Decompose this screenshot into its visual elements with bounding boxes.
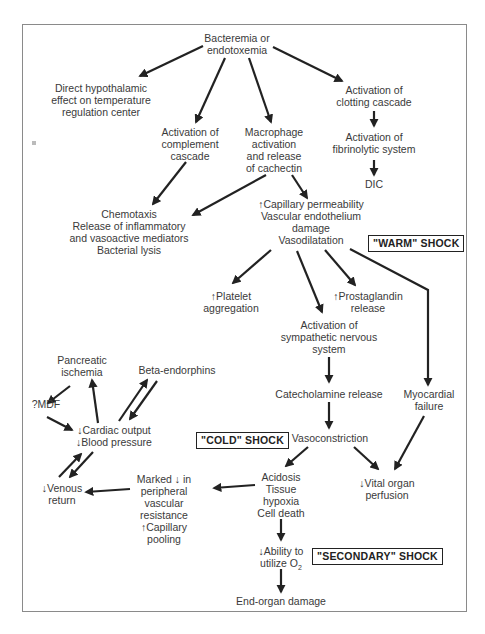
node-text: utilize O2 [259,557,304,574]
node-pancreatic: Pancreatic ischemia [57,354,107,378]
node-text: Activation of [336,84,411,96]
arrow-venous-cardiac [59,454,81,477]
node-text: release [333,302,402,314]
node-sympathetic: Activation of sympathetic nervous system [281,319,377,355]
node-fibrinolytic: Activation of fibrinolytic system [333,131,416,155]
node-text: ischemia [57,366,107,378]
node-text: ↑Capillary [137,521,191,533]
node-vital-organ: ↓Vital organ perfusion [359,477,414,501]
arrow-vaso-prostaglandin [325,250,355,285]
node-text: Activation of [333,131,416,143]
subscript-2: 2 [298,564,302,571]
node-chemotaxis: Chemotaxis Release of inflammatory and v… [69,208,188,256]
arrow-bacteremia-clotting [273,47,342,81]
node-text: ↑Prostaglandin [333,290,402,302]
node-text: hypoxia [257,495,304,507]
node-text: Marked ↓ in [137,473,191,485]
node-text: fibrinolytic system [333,143,416,155]
node-cardiac: ↓Cardiac output ↓Blood pressure [76,424,152,448]
node-text: Pancreatic [57,354,107,366]
node-text: Myocardial [404,388,455,400]
node-complement: Activation of complement cascade [161,126,218,162]
node-capillary: ↑Capillary permeability Vascular endothe… [258,198,364,246]
node-macrophage: Macrophage activation and release of cac… [245,126,303,174]
arrow-vaso-platelet [233,250,271,283]
arrow-marked-venous [86,489,130,492]
arrow-vaso-sympathetic [297,251,322,312]
node-prostaglandin: ↑Prostaglandin release [333,290,402,314]
node-text: ?MDF [32,398,61,410]
node-text: Direct hypothalamic [51,82,151,94]
warm-shock-label: "WARM" SHOCK [368,235,464,252]
node-ability: ↓Ability to utilize O2 [259,545,304,574]
node-text: peripheral [137,485,191,497]
node-text: ↓Cardiac output [76,424,152,436]
node-hypothalamic: Direct hypothalamic effect on temperatur… [51,82,151,118]
arrow-mdf-cardiac [47,417,72,430]
node-text: Vasoconstriction [292,432,368,444]
node-venous: ↓Venous return [42,482,82,506]
node-text: of cachectin [245,162,303,174]
node-beta-endorphins: Beta-endorphins [138,364,215,376]
arrow-acidosis-marked [214,485,255,488]
node-text: sympathetic nervous [281,331,377,343]
node-text: perfusion [359,489,414,501]
node-text: failure [404,400,455,412]
node-text-main: utilize O [260,557,298,569]
node-text: pooling [137,533,191,545]
node-marked-resistance: Marked ↓ in peripheral vascular resistan… [137,473,191,545]
node-platelet: ↑Platelet aggregation [203,290,258,314]
arrow-vasoconstriction-vital [354,447,378,469]
node-acidosis: Acidosis Tissue hypoxia Cell death [257,471,304,519]
node-myocardial: Myocardial failure [404,388,455,412]
node-text: activation [245,138,303,150]
node-text: resistance [137,509,191,521]
node-dic: DIC [365,178,383,190]
node-text: and vasoactive mediators [69,232,188,244]
node-text: vascular [137,497,191,509]
secondary-shock-label: "SECONDARY" SHOCK [312,548,443,565]
node-text: cascade [161,150,218,162]
node-mdf: ?MDF [32,398,61,410]
node-text: ↑Platelet [203,290,258,302]
node-text: Tissue [257,483,304,495]
arrow-cardiac-venous [70,452,93,477]
node-text: complement [161,138,218,150]
node-text: Activation of [161,126,218,138]
arrow-bacteremia-macrophage [249,58,271,122]
node-text: Chemotaxis [69,208,188,220]
node-text: Vascular endothelium [258,210,364,222]
node-text: system [281,343,377,355]
node-clotting: Activation of clotting cascade [336,84,411,108]
arrow-cardiac-pancreatic [92,380,98,423]
node-text: damage [258,222,364,234]
node-text: ↓Venous [42,482,82,494]
cold-shock-label: "COLD" SHOCK [196,432,289,449]
node-text: End-organ damage [236,595,326,607]
node-text: Activation of [281,319,377,331]
node-text: aggregation [203,302,258,314]
arrow-macrophage-capillary [292,175,307,198]
arrow-vaso-myocardial [350,249,428,385]
node-vasoconstriction: Vasoconstriction [292,432,368,444]
node-text: Acidosis [257,471,304,483]
node-text: ↓Blood pressure [76,436,152,448]
node-text: ↓Ability to [259,545,304,557]
arrow-vasoconstriction-acidosis [286,447,308,466]
node-end-organ: End-organ damage [236,595,326,607]
arrow-bacteremia-hypothalamic [140,46,203,76]
node-text: Beta-endorphins [138,364,215,376]
node-catecholamine: Catecholamine release [275,388,382,400]
node-text: Catecholamine release [275,388,382,400]
node-text: ↑Capillary permeability [258,198,364,210]
node-text: return [42,494,82,506]
arrow-bacteremia-complement [196,58,225,122]
node-text: Bacteremia or [204,32,269,44]
node-text: Release of inflammatory [69,220,188,232]
arrow-myocardial-vital [395,416,424,469]
node-text: effect on temperature [51,94,151,106]
node-bacteremia: Bacteremia or endotoxemia [204,32,269,56]
node-text: clotting cascade [336,96,411,108]
node-text: Macrophage [245,126,303,138]
node-text: Bacterial lysis [69,244,188,256]
